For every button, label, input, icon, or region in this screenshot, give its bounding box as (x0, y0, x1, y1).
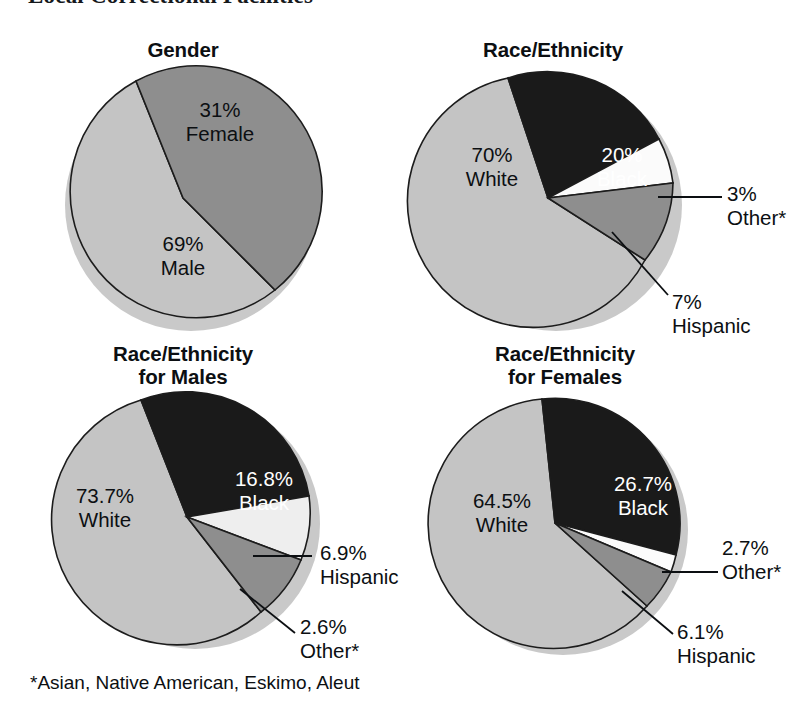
label-male: 69% Male (118, 232, 248, 279)
label-white: 70% White (432, 143, 552, 190)
label-hispanic: 7% Hispanic (672, 290, 802, 337)
label-hispanic: 6.1% Hispanic (677, 620, 805, 667)
pie-chart-gender (0, 0, 400, 340)
label-white: 64.5% White (437, 489, 567, 536)
label-black: 26.7% Black (578, 472, 708, 519)
label-black: 20% Black (567, 143, 677, 190)
label-other: 3% Other* (727, 182, 805, 229)
label-black: 16.8% Black (199, 467, 329, 514)
label-female: 31% Female (155, 98, 285, 145)
label-white: 73.7% White (40, 484, 170, 531)
label-other: 2.7% Other* (722, 536, 805, 583)
footnote: *Asian, Native American, Eskimo, Aleut (30, 672, 359, 694)
